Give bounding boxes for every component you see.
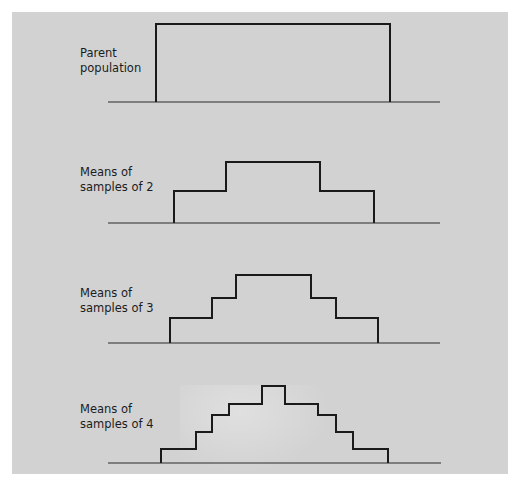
label-line: Means of — [80, 286, 154, 301]
figure-canvas: Parent population Means of samples of 2 … — [0, 0, 519, 483]
parent-population-plot — [108, 24, 440, 102]
samples-4-distribution-outline — [161, 386, 388, 463]
samples-of-3-plot — [108, 275, 440, 343]
label-line: population — [80, 61, 141, 76]
label-line: Parent — [80, 46, 141, 61]
label-samples-of-4: Means of samples of 4 — [80, 402, 154, 432]
label-line: Means of — [80, 402, 154, 417]
parent-distribution-outline — [156, 24, 390, 102]
label-samples-of-2: Means of samples of 2 — [80, 165, 154, 195]
label-line: samples of 3 — [80, 301, 154, 316]
label-parent-population: Parent population — [80, 46, 141, 76]
samples-3-distribution-outline — [170, 275, 378, 343]
samples-of-2-plot — [108, 162, 440, 223]
samples-2-distribution-outline — [174, 162, 374, 223]
sampling-distribution-diagram — [0, 0, 519, 483]
label-line: Means of — [80, 165, 154, 180]
samples-of-4-plot — [108, 386, 441, 463]
label-line: samples of 4 — [80, 417, 154, 432]
label-line: samples of 2 — [80, 180, 154, 195]
label-samples-of-3: Means of samples of 3 — [80, 286, 154, 316]
